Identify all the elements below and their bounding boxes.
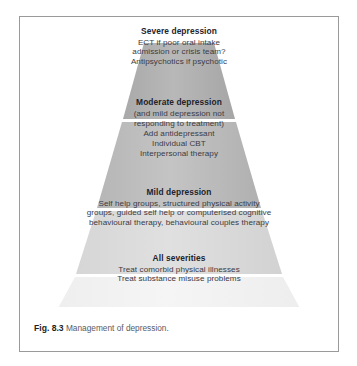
tier-line-mild-1: Self help groups, structured physical ac…: [32, 199, 326, 209]
tier-line-moderate-2: responding to treatment): [64, 119, 294, 129]
tier-title-all-severities: All severities: [48, 254, 310, 264]
figure-caption: Fig. 8.3 Management of depression.: [34, 323, 326, 333]
tier-line-severe-2: admission or crisis team?: [79, 47, 279, 57]
tier-label-all-severities: All severities Treat comorbid physical i…: [48, 254, 310, 284]
figure-root: Severe depression ECT if poor oral intak…: [0, 0, 357, 366]
tier-line-severe-3: Antipsychotics if psychotic: [79, 57, 279, 67]
tier-line-severe-1: ECT if poor oral intake: [79, 38, 279, 48]
pyramid-diagram: Severe depression ECT if poor oral intak…: [20, 17, 338, 307]
tier-line-mild-2: groups, guided self help or computerised…: [32, 208, 326, 218]
figure-caption-text: Management of depression.: [66, 323, 169, 333]
tier-line-all-1: Treat comorbid physical illnesses: [48, 265, 310, 275]
tier-line-all-2: Treat substance misuse problems: [48, 274, 310, 284]
tier-label-moderate: Moderate depression (and mild depression…: [64, 98, 294, 159]
tier-title-severe: Severe depression: [79, 27, 279, 37]
tier-line-moderate-1: (and mild depression not: [64, 109, 294, 119]
figure-frame: Severe depression ECT if poor oral intak…: [19, 16, 339, 352]
figure-caption-label: Fig. 8.3: [34, 323, 64, 333]
tier-title-moderate: Moderate depression: [64, 98, 294, 108]
tier-line-moderate-4: Individual CBT: [64, 139, 294, 149]
tier-label-severe: Severe depression ECT if poor oral intak…: [79, 27, 279, 67]
tier-line-moderate-3: Add antidepressant: [64, 129, 294, 139]
tier-line-mild-3: behavioural therapy, behavioural couples…: [32, 218, 326, 228]
tier-label-mild: Mild depression Self help groups, struct…: [32, 188, 326, 228]
tier-title-mild: Mild depression: [32, 188, 326, 198]
tier-line-moderate-5: Interpersonal therapy: [64, 149, 294, 159]
